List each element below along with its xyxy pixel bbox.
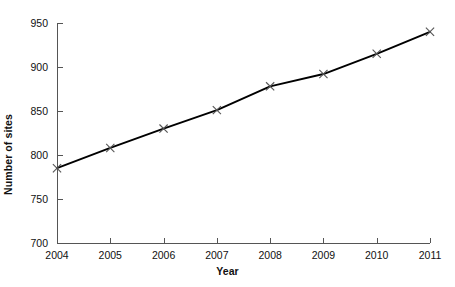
y-axis-tick-label: 900 xyxy=(10,61,48,73)
y-axis-tick-label: 950 xyxy=(10,17,48,29)
y-axis-tick-label: 750 xyxy=(10,193,48,205)
x-axis-tick-label: 2010 xyxy=(365,249,388,261)
x-axis-tick-label: 2007 xyxy=(205,249,228,261)
data-point-marker xyxy=(426,28,434,36)
data-point-marker xyxy=(106,144,114,152)
x-axis-tick-label: 2004 xyxy=(45,249,68,261)
x-axis-tick-label: 2008 xyxy=(258,249,281,261)
x-axis-title: Year xyxy=(0,265,455,277)
line-chart: Number of sites Year 700750800850900950 … xyxy=(0,0,455,287)
x-axis-tick-label: 2005 xyxy=(99,249,122,261)
data-point-marker xyxy=(373,50,381,58)
chart-markers xyxy=(53,28,434,173)
x-axis-tick-label: 2009 xyxy=(312,249,335,261)
chart-plot-area xyxy=(0,0,455,287)
series-line xyxy=(57,32,430,168)
chart-series xyxy=(57,32,430,168)
y-axis-tick-label: 850 xyxy=(10,105,48,117)
x-axis-tick-label: 2011 xyxy=(419,249,442,261)
y-axis-tick-label: 800 xyxy=(10,149,48,161)
y-axis-tick-label: 700 xyxy=(10,237,48,249)
x-axis-tick-label: 2006 xyxy=(152,249,175,261)
